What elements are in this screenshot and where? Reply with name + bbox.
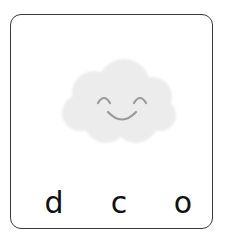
letter-option-d[interactable]: d	[42, 183, 66, 223]
letter-options: d c o	[11, 183, 212, 223]
letter-option-c[interactable]: c	[107, 183, 131, 223]
letter-option-o[interactable]: o	[171, 183, 195, 223]
letter-card[interactable]: d c o	[10, 14, 213, 229]
smiling-cloud-icon	[56, 55, 186, 150]
